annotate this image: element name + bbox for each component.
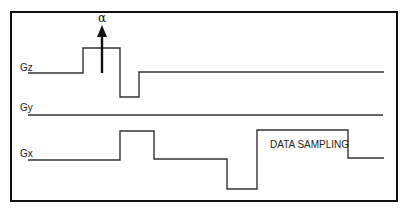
diagram-frame: [11, 12, 397, 201]
channel-label: Gz: [20, 62, 33, 73]
gradient-timing-diagram: GzGyGx α DATA SAMPLING: [0, 0, 406, 213]
channel-gz: Gz: [20, 48, 384, 97]
channel-gy: Gy: [20, 102, 383, 115]
channel-label: Gx: [20, 148, 33, 159]
rf-pulse-arrow-icon: [97, 25, 107, 73]
waveform-gz: [28, 48, 384, 97]
data-sampling-label: DATA SAMPLING: [270, 139, 349, 150]
flip-angle-symbol: α: [98, 11, 106, 25]
channel-label: Gy: [20, 102, 33, 113]
